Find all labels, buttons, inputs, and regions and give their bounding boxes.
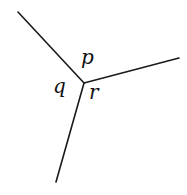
segment-upper-left bbox=[18, 12, 84, 83]
angle-label-q: q bbox=[53, 74, 66, 98]
angle-label-r: r bbox=[89, 80, 100, 104]
angle-diagram: p q r bbox=[0, 0, 187, 195]
angle-label-p: p bbox=[81, 45, 94, 69]
